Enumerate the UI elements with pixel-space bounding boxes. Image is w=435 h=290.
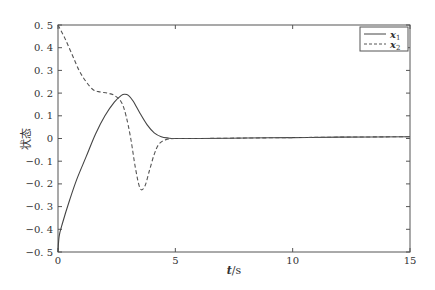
y-tick-label: 0. 3 (34, 65, 53, 76)
y-tick-label: −0. 4 (26, 224, 53, 235)
x-tick-label: 10 (286, 255, 299, 266)
y-tick-label: 0. 5 (34, 20, 53, 31)
y-tick-label: −0. 5 (26, 247, 53, 258)
y-tick-label: −0. 2 (26, 178, 53, 189)
x-tick-label: 15 (404, 255, 417, 266)
y-axis-label: 状态 (19, 128, 33, 150)
x-tick-label: 5 (172, 255, 178, 266)
y-tick-label: 0. 4 (34, 42, 53, 53)
legend-box (360, 27, 408, 51)
y-tick-label: 0 (47, 133, 53, 144)
y-tick-label: −0. 1 (26, 156, 53, 167)
x-tick-label: 0 (55, 255, 61, 266)
y-tick-label: 0. 1 (34, 110, 53, 121)
y-tick-label: −0. 3 (26, 201, 53, 212)
y-tick-label: 0. 2 (34, 88, 53, 99)
x-axis-label: t/s (227, 264, 242, 277)
legend: x1x2 (360, 27, 408, 52)
line-chart: 0. 50. 40. 30. 20. 10−0. 1−0. 2−0. 3−0. … (0, 0, 435, 290)
